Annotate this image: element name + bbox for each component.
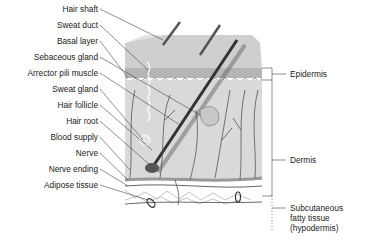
label-basal-layer: Basal layer <box>57 36 98 46</box>
label-arrector-pili-muscle: Arrector pili muscle <box>27 68 98 78</box>
epidermis-layer <box>125 68 262 78</box>
label-hair-follicle: Hair follicle <box>57 100 98 110</box>
label-blood-supply: Blood supply <box>50 132 98 142</box>
label-sweat-gland: Sweat gland <box>52 84 98 94</box>
label-adipose-tissue: Adipose tissue <box>44 180 98 190</box>
sebaceous-gland <box>200 106 219 126</box>
right-brackets <box>262 68 286 230</box>
label-epidermis: Epidermis <box>290 69 327 79</box>
label-subcutaneous-line2: fatty tissue <box>290 213 343 223</box>
label-dermis: Dermis <box>290 155 316 165</box>
hair-root <box>145 163 159 173</box>
label-subcutaneous-line1: Subcutaneous <box>290 203 343 213</box>
label-subcutaneous: Subcutaneous fatty tissue (hypodermis) <box>290 203 343 233</box>
skin-diagram: Hair shaft Sweat duct Basal layer Sebace… <box>0 0 366 249</box>
label-subcutaneous-line3: (hypodermis) <box>290 223 343 233</box>
label-nerve-ending: Nerve ending <box>49 164 98 174</box>
label-hair-root: Hair root <box>66 116 98 126</box>
label-hair-shaft: Hair shaft <box>62 4 98 14</box>
label-sebaceous-gland: Sebaceous gland <box>34 52 98 62</box>
label-nerve: Nerve <box>76 148 98 158</box>
label-sweat-duct: Sweat duct <box>57 20 98 30</box>
